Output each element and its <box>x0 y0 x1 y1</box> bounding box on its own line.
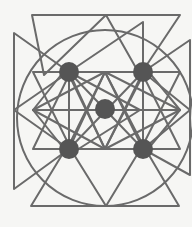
dot-top-right <box>133 62 153 82</box>
dot-bottom-right <box>133 139 153 159</box>
dot-bottom-left <box>59 139 79 159</box>
dot-center <box>95 99 115 119</box>
dot-top-left <box>59 62 79 82</box>
geometric-diagram <box>0 0 192 227</box>
diagram-canvas <box>0 0 192 227</box>
